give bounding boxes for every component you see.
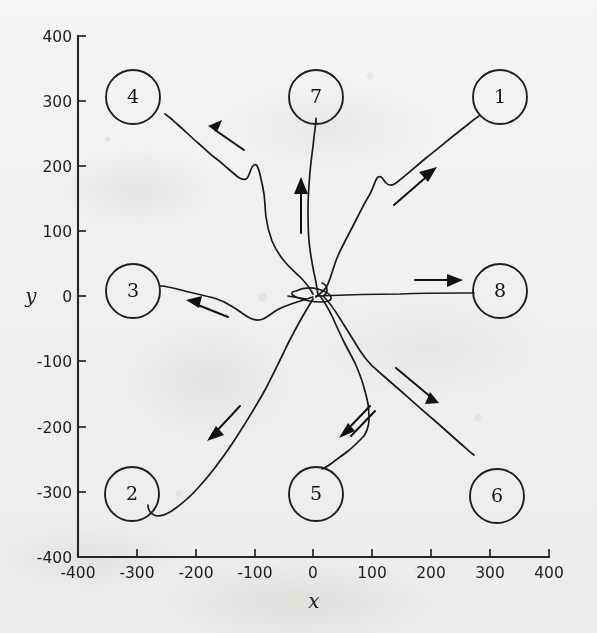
y-tick-label: -100 — [37, 353, 72, 371]
x-tick-label: -300 — [119, 564, 154, 582]
arrow-to-7 — [294, 177, 308, 233]
trajectory-to-4 — [165, 114, 313, 294]
trajectory-to-1 — [316, 116, 479, 297]
arrow-to-6 — [396, 368, 439, 404]
y-tick-label: 200 — [42, 158, 72, 176]
x-tick-label: -200 — [178, 564, 213, 582]
y-axis-ticks — [78, 36, 86, 557]
y-tick-label: 400 — [42, 28, 72, 46]
x-tick-label: -400 — [60, 564, 95, 582]
goal-node-1[interactable]: 1 — [473, 70, 527, 124]
trajectory-to-5 — [320, 296, 369, 469]
x-tick-label: 300 — [475, 564, 505, 582]
arrow-to-8 — [415, 274, 463, 287]
goal-node-5[interactable]: 5 — [289, 467, 343, 521]
arrow-to-5-second — [351, 411, 375, 436]
arrow-to-4 — [208, 120, 244, 150]
goal-node-label: 5 — [310, 482, 322, 504]
y-tick-label: -300 — [37, 484, 72, 502]
goal-node-label: 2 — [126, 482, 138, 504]
goal-node-label: 4 — [127, 85, 139, 107]
goal-node-6[interactable]: 6 — [470, 469, 524, 523]
y-tick-label: 100 — [42, 223, 72, 241]
trajectory-to-2 — [148, 299, 313, 516]
arrow-to-2 — [207, 406, 240, 441]
x-axis-title: x — [308, 589, 319, 613]
goal-node-label: 6 — [491, 484, 503, 506]
goal-node-label: 7 — [310, 85, 322, 107]
goal-node-2[interactable]: 2 — [105, 467, 159, 521]
trajectory-to-3 — [160, 286, 313, 320]
x-tick-label: 400 — [534, 564, 564, 582]
x-tick-label: -100 — [237, 564, 272, 582]
x-axis-tick-labels: -400 -300 -200 -100 0 100 200 300 400 — [60, 564, 563, 582]
goal-node-7[interactable]: 7 — [289, 70, 343, 124]
y-axis-tick-labels: 400 300 200 100 0 -100 -200 -300 -400 — [37, 28, 72, 567]
origin-tangle-3 — [288, 296, 306, 299]
x-axis-ticks — [78, 549, 549, 557]
y-tick-label: -200 — [37, 419, 72, 437]
figure-page: 400 300 200 100 0 -100 -200 -300 -400 -4… — [0, 0, 597, 633]
x-tick-label: 0 — [308, 564, 318, 582]
trajectory-chart: 400 300 200 100 0 -100 -200 -300 -400 -4… — [0, 0, 597, 633]
goal-node-8[interactable]: 8 — [473, 264, 527, 318]
y-tick-label: 300 — [42, 93, 72, 111]
goal-node-label: 8 — [494, 279, 506, 301]
trajectory-to-8 — [316, 293, 474, 296]
goal-node-label: 3 — [127, 279, 139, 301]
goal-node-label: 1 — [494, 85, 506, 107]
trajectory-to-7 — [308, 118, 318, 295]
y-tick-label: 0 — [62, 288, 72, 306]
x-tick-label: 200 — [416, 564, 446, 582]
goal-node-4[interactable]: 4 — [106, 70, 160, 124]
y-axis-title: y — [24, 284, 37, 308]
x-tick-label: 100 — [357, 564, 387, 582]
arrow-to-1 — [394, 167, 437, 205]
arrow-to-3 — [186, 296, 228, 317]
goal-node-3[interactable]: 3 — [106, 264, 160, 318]
